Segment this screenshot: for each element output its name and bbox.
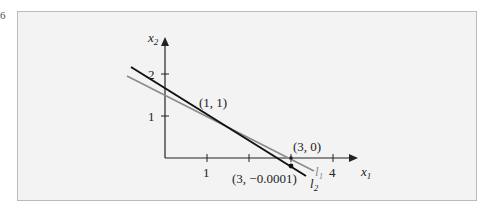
tick-label-y2: 2: [148, 67, 155, 82]
annotation-1-1: (1, 1): [199, 95, 227, 110]
y-axis-label: x2: [147, 30, 159, 47]
tick-label-x4: 4: [329, 165, 336, 180]
x-axis-arrow-icon: [349, 154, 358, 162]
diagram-svg: 1 4 1 2 x1 x2 (1, 1) (3, 0) (3, −0.0001)…: [0, 0, 496, 222]
tick-label-y1: 1: [148, 109, 155, 124]
annotation-3-0: (3, 0): [293, 139, 321, 154]
point-3-neg: [289, 164, 294, 169]
line-l2: [131, 67, 306, 176]
x-axis-label: x1: [360, 164, 371, 181]
annotation-3-neg: (3, −0.0001): [232, 171, 297, 186]
line-label-l1: l1: [315, 164, 323, 181]
point-3-0: [289, 156, 293, 160]
tick-label-x1: 1: [203, 165, 210, 180]
y-axis-arrow-icon: [161, 37, 169, 46]
